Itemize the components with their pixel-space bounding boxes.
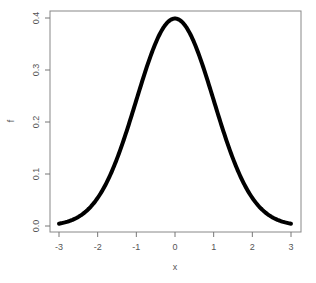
x-tick-label: -3 (55, 242, 63, 252)
x-tick-label: 0 (172, 242, 177, 252)
x-tick-label: 2 (250, 242, 255, 252)
y-tick-label: 0.1 (31, 168, 41, 181)
y-tick-label: 0.0 (31, 220, 41, 233)
x-axis-label: x (173, 262, 178, 272)
x-tick-label: 1 (211, 242, 216, 252)
y-tick-label: 0.3 (31, 64, 41, 77)
x-tick-label: -2 (94, 242, 102, 252)
x-tick-label: -1 (132, 242, 140, 252)
y-tick-label: 0.2 (31, 116, 41, 129)
x-tick-label: 3 (288, 242, 293, 252)
density-chart: -3-2-10123 0.00.10.20.30.4 x f (0, 0, 316, 283)
y-tick-label: 0.4 (31, 12, 41, 25)
